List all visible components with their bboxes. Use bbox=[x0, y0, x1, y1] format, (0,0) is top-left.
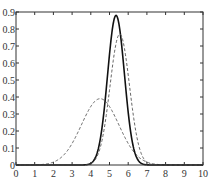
plot-area bbox=[16, 15, 203, 165]
y-tick-label: 0.8 bbox=[3, 24, 16, 35]
y-tick-label: 0.1 bbox=[3, 143, 16, 154]
x-tick-label: 4 bbox=[88, 168, 93, 179]
chart: 01234567891000.10.20.30.40.50.60.70.80.9 bbox=[0, 0, 210, 187]
y-tick-label: 0.2 bbox=[3, 126, 16, 137]
x-tick-label: 2 bbox=[51, 168, 56, 179]
x-tick-label: 9 bbox=[182, 168, 187, 179]
y-tick-label: 0.7 bbox=[3, 41, 16, 52]
x-tick-label: 7 bbox=[144, 168, 149, 179]
y-tick-label: 0.5 bbox=[3, 75, 16, 86]
x-tick-label: 6 bbox=[126, 168, 131, 179]
x-tick-label: 1 bbox=[32, 168, 37, 179]
x-tick-label: 8 bbox=[163, 168, 168, 179]
x-tick-label: 10 bbox=[198, 168, 208, 179]
y-tick-label: 0.6 bbox=[3, 58, 16, 69]
x-tick-label: 3 bbox=[70, 168, 75, 179]
y-tick-label: 0.9 bbox=[3, 7, 16, 18]
y-tick-label: 0 bbox=[10, 160, 15, 171]
y-tick-label: 0.4 bbox=[3, 92, 16, 103]
axes-frame bbox=[16, 12, 203, 165]
series-wide-dashed bbox=[16, 99, 203, 165]
y-tick-label: 0.3 bbox=[3, 109, 16, 120]
x-tick-label: 5 bbox=[107, 168, 112, 179]
